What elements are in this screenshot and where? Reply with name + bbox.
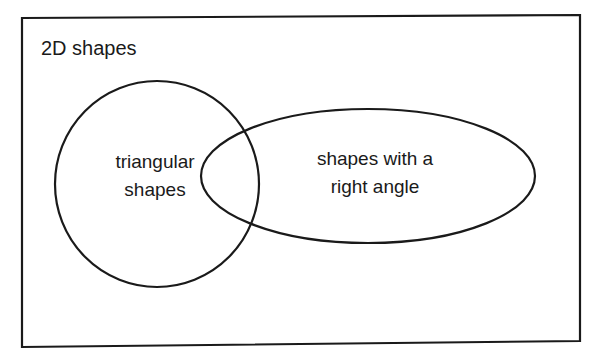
set-triangular-label: triangular shapes [70, 148, 240, 204]
set-right-angle-label: shapes with a right angle [290, 145, 460, 201]
set-right-angle-label-line-2: right angle [290, 173, 460, 201]
set-triangular-label-line-2: shapes [70, 176, 240, 204]
set-triangular-label-line-1: triangular [70, 148, 240, 176]
set-right-angle-label-line-1: shapes with a [290, 145, 460, 173]
universe-label: 2D shapes [41, 34, 137, 62]
